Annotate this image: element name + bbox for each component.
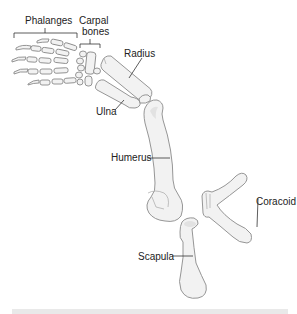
carpal-bones <box>76 51 101 86</box>
wing-skeleton-diagram: Phalanges Carpal bones <box>0 0 297 314</box>
scapula-bone <box>180 218 207 299</box>
radius-leader <box>129 58 142 78</box>
carpal-bracket <box>80 39 100 48</box>
label-scapula: Scapula <box>138 251 175 262</box>
label-radius: Radius <box>124 48 155 59</box>
phalanges-bracket <box>14 28 77 38</box>
coracoid-bone <box>202 173 252 243</box>
label-humerus: Humerus <box>111 152 152 163</box>
label-carpal-line2: bones <box>82 26 109 37</box>
label-phalanges: Phalanges <box>25 15 72 26</box>
label-ulna: Ulna <box>96 106 117 117</box>
phalanges-bones <box>12 39 77 85</box>
label-coracoid: Coracoid <box>256 196 296 207</box>
label-carpal-line1: Carpal <box>79 15 108 26</box>
caption-band <box>12 309 288 314</box>
